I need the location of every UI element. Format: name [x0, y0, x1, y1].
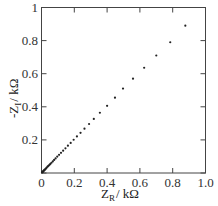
data-point: [83, 128, 85, 130]
data-point: [60, 152, 62, 154]
data-point: [76, 135, 78, 137]
data-point: [122, 87, 124, 89]
data-point: [64, 147, 66, 149]
data-point: [73, 139, 75, 141]
y-tick-label: 0.8: [22, 33, 38, 48]
y-tick-labels: 0.20.40.60.81: [22, 0, 39, 147]
x-tick-label: 0: [38, 175, 45, 190]
y-axis-label: -ZI/ kΩ: [6, 79, 23, 118]
data-point: [114, 97, 116, 99]
data-point: [132, 78, 134, 80]
x-axis-label: ZR/ kΩ: [101, 186, 139, 203]
data-point: [106, 105, 108, 107]
data-point: [143, 67, 145, 69]
data-point: [93, 118, 95, 120]
data-points: [41, 25, 187, 174]
data-point: [184, 25, 186, 27]
data-point: [70, 142, 72, 144]
y-tick-label: 0.2: [22, 132, 38, 147]
data-point: [79, 132, 81, 134]
data-point: [155, 54, 157, 56]
y-tick-label: 0.4: [22, 99, 39, 114]
nyquist-plot: 00.20.40.60.81.0 0.20.40.60.81 ZR/ kΩ -Z…: [0, 0, 218, 206]
data-point: [169, 41, 171, 43]
x-tick-label: 1.0: [197, 175, 213, 190]
x-tick-label: 0.2: [66, 175, 82, 190]
x-tick-label: 0.8: [165, 175, 181, 190]
data-point: [99, 112, 101, 114]
y-tick-label: 1: [32, 0, 39, 15]
data-point: [62, 150, 64, 152]
data-point: [56, 156, 58, 158]
data-point: [58, 154, 60, 156]
y-tick-label: 0.6: [22, 66, 39, 81]
data-point: [88, 123, 90, 125]
data-point: [67, 145, 69, 147]
data-point: [41, 171, 43, 173]
